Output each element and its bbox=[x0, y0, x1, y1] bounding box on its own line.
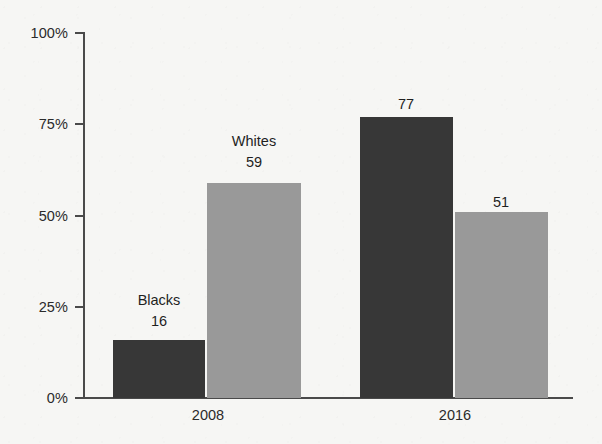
bar-2016-blacks[interactable] bbox=[360, 117, 453, 398]
y-tick-mark-50 bbox=[75, 215, 83, 217]
bar-chart: 100% 75% 50% 25% 0% Blacks 16 Whites 59 … bbox=[0, 0, 602, 444]
bar-value-2016-blacks: 77 bbox=[351, 94, 461, 115]
y-tick-label-25: 25% bbox=[0, 300, 68, 315]
series-name-blacks: Blacks bbox=[104, 290, 214, 311]
bar-value-2008-blacks: 16 bbox=[104, 311, 214, 332]
bar-label-2016-whites: 51 bbox=[446, 192, 556, 213]
bar-value-2016-whites: 51 bbox=[446, 192, 556, 213]
bar-label-2016-blacks: 77 bbox=[351, 94, 461, 115]
x-tick-label-2008: 2008 bbox=[148, 408, 268, 423]
y-axis-line bbox=[83, 32, 85, 399]
plot-area: 100% 75% 50% 25% 0% Blacks 16 Whites 59 … bbox=[0, 0, 602, 444]
y-tick-mark-25 bbox=[75, 306, 83, 308]
bar-2016-whites[interactable] bbox=[455, 212, 548, 398]
bar-label-2008-blacks: Blacks 16 bbox=[104, 290, 214, 331]
x-tick-label-2016: 2016 bbox=[395, 408, 515, 423]
y-tick-mark-75 bbox=[75, 123, 83, 125]
y-tick-mark-100 bbox=[75, 32, 83, 34]
y-tick-label-75: 75% bbox=[0, 117, 68, 132]
series-name-whites: Whites bbox=[199, 131, 309, 152]
y-tick-mark-0 bbox=[75, 397, 83, 399]
bar-label-2008-whites: Whites 59 bbox=[199, 131, 309, 172]
bar-2008-whites[interactable] bbox=[207, 183, 301, 398]
y-tick-label-50: 50% bbox=[0, 209, 68, 224]
y-tick-label-0: 0% bbox=[0, 391, 68, 406]
bar-value-2008-whites: 59 bbox=[199, 152, 309, 173]
bar-2008-blacks[interactable] bbox=[113, 340, 205, 398]
y-tick-label-100: 100% bbox=[0, 26, 68, 41]
